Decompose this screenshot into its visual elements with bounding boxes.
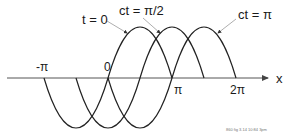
- pointer-ct-pi-arrow: [218, 19, 236, 33]
- pointer-t0-arrow: [107, 21, 127, 33]
- tick-label-neg-pi: -π: [36, 60, 48, 74]
- curve-label-t0: t = 0: [82, 12, 108, 27]
- curve-label-ct-pi: ct = π: [238, 7, 272, 22]
- curve-label-ct-pi-half: ct = π/2: [119, 3, 164, 18]
- x-axis-label: x: [276, 71, 283, 86]
- figure-footer: 860 fig 3.14 10:84 3pm: [226, 127, 268, 132]
- tick-label-zero: 0: [104, 60, 111, 74]
- tick-label-pi: π: [174, 83, 182, 97]
- tick-label-two-pi: 2π: [230, 83, 245, 97]
- pointer-ct-pi-half-arrow: [143, 18, 160, 33]
- wave-diagram: x -π 0 π 2π t = 0 ct = π/2 ct = π 860 fi…: [0, 0, 290, 136]
